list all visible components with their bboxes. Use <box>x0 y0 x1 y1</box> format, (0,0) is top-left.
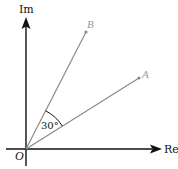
real-axis-label: Re <box>164 143 178 156</box>
point-b-label: B <box>87 18 94 30</box>
point-a-label: A <box>141 68 149 80</box>
origin-label: O <box>15 149 24 163</box>
angle-label: 30° <box>41 120 59 131</box>
ray-ob <box>26 32 86 149</box>
point-a <box>137 76 140 79</box>
imaginary-axis-label: Im <box>19 3 34 16</box>
point-b <box>84 30 87 33</box>
argand-diagram: Re Im O B A 30° <box>0 0 178 169</box>
ray-oa <box>26 78 139 149</box>
